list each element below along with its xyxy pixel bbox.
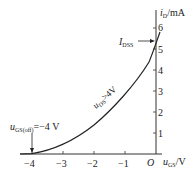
x-tick-label: −2 (87, 158, 98, 169)
origin-label: O (147, 157, 154, 168)
x-axis-label-unit: /V (176, 156, 187, 167)
y-tick-label: 4 (158, 65, 163, 76)
idss-label-sub: DSS (122, 42, 133, 48)
y-axis-label-unit: /mA (167, 7, 186, 18)
idss-label: IDSS (118, 36, 133, 48)
y-tick-label: 5 (158, 44, 163, 55)
x-tick-label: −4 (24, 158, 35, 169)
cutoff-label-sub: GS(off) (15, 127, 34, 134)
curve-label: uDS>4V (91, 84, 120, 111)
y-tick-label: 6 (158, 22, 163, 33)
y-axis-label: iD/mA (160, 7, 186, 19)
x-tick-label: −1 (118, 158, 129, 169)
y-tick-label: 3 (158, 86, 163, 97)
transfer-characteristic-chart: 1 2 3 4 5 6 −4 −3 −2 −1 O iD/mA uGS/V ID… (0, 0, 193, 176)
x-tick-label: −3 (56, 158, 67, 169)
x-axis-label: uGS/V (163, 156, 186, 168)
y-tick-label: 1 (158, 128, 163, 139)
idss-arrowhead (150, 39, 155, 43)
cutoff-label-rest: =−4 V (34, 121, 61, 132)
y-tick-label: 2 (158, 107, 163, 118)
transfer-curve (20, 32, 160, 154)
cutoff-arrowhead (30, 148, 34, 153)
x-axis-label-sub: GS (168, 162, 176, 168)
cutoff-label: uGS(off)=−4 V (10, 121, 60, 134)
